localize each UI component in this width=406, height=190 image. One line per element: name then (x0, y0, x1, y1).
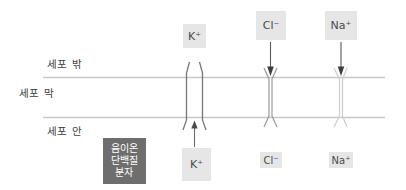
chloride-flow-arrow-down (267, 42, 274, 76)
compartment-label-membrane: 세포 막 (19, 85, 54, 100)
potassium-channel-right-wall (200, 62, 207, 130)
potassium-channel-left-wall (183, 62, 190, 130)
chloride-arrow-head (267, 67, 274, 77)
anion-protein-line-2: 단백질 (111, 155, 139, 167)
anion-protein-line-3: 분자 (115, 167, 133, 179)
anion-protein-line-1: 음이온 (111, 143, 139, 155)
sodium-arrow-head (338, 67, 345, 77)
ion-label-potassium-inside: K⁺ (182, 148, 211, 181)
potassium-flow-arrow-up (191, 121, 197, 148)
ion-label-chloride-outside: Cl⁻ (256, 11, 286, 40)
ion-label-sodium-outside: Na⁺ (325, 11, 357, 40)
ion-label-sodium-inside: Na⁺ (329, 152, 353, 168)
ion-label-potassium-outside: K⁺ (183, 24, 206, 48)
cell-membrane-diagram: 세포 밖 세포 막 세포 안 K⁺ Cl⁻ Na⁺ K⁺ Cl⁻ Na⁺ 음이온… (0, 0, 406, 190)
ion-label-chloride-inside: Cl⁻ (260, 152, 282, 168)
sodium-flow-arrow-down (338, 42, 345, 76)
anion-protein-molecule-box: 음이온 단백질 분자 (103, 138, 146, 184)
compartment-label-outside: 세포 밖 (47, 56, 82, 71)
potassium-channel (183, 62, 206, 130)
compartment-label-inside: 세포 안 (47, 123, 82, 138)
potassium-arrow-head (191, 121, 197, 129)
